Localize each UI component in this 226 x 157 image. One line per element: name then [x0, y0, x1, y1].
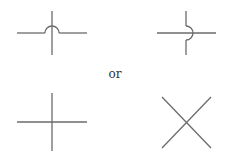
- crossing-hop-horizontal-symbol: [17, 11, 87, 55]
- crossing-hop-vertical-symbol: [157, 11, 216, 55]
- crossing-x-symbol: [162, 97, 211, 148]
- or-separator-label: or: [106, 67, 124, 81]
- crossing-plus-symbol: [17, 93, 87, 151]
